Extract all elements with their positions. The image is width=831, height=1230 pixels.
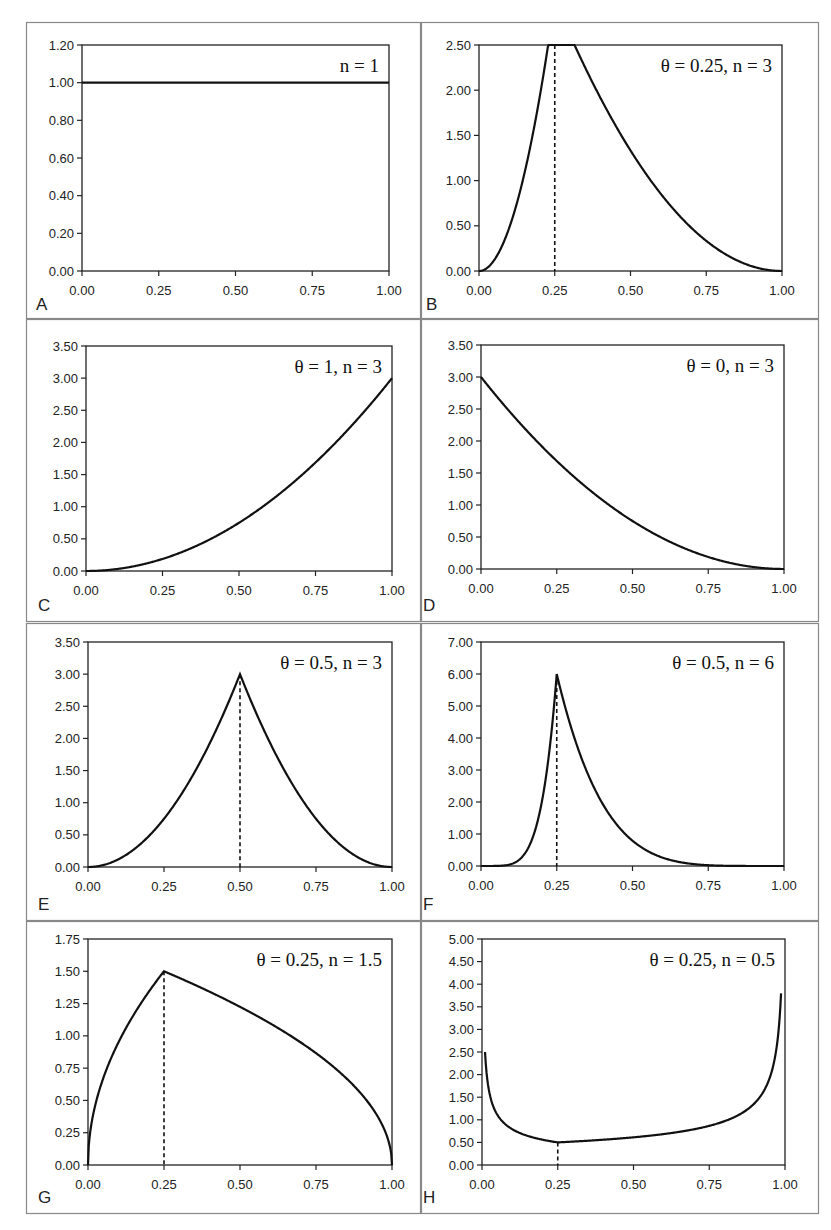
plot-area: [86, 346, 392, 571]
y-tick-label: 3.50: [53, 339, 78, 354]
x-tick-label: 0.00: [468, 581, 493, 596]
x-tick-label: 0.00: [75, 1177, 100, 1192]
y-tick-label: 3.00: [55, 667, 80, 682]
y-tick-label: 1.00: [448, 827, 473, 842]
x-tick-label: 0.50: [620, 581, 645, 596]
plot-area: [82, 45, 389, 271]
y-tick-label: 1.00: [53, 499, 78, 514]
y-tick-label: 3.00: [449, 1022, 474, 1037]
y-tick-label: 0.50: [55, 827, 80, 842]
x-tick-label: 0.50: [223, 283, 248, 298]
x-tick-label: 0.75: [300, 283, 325, 298]
y-tick-label: 0.00: [53, 564, 78, 579]
y-tick-label: 3.50: [448, 338, 473, 353]
figure-grid: 0.000.200.400.600.801.001.200.000.250.50…: [0, 0, 831, 1230]
x-tick-label: 0.25: [545, 1177, 570, 1192]
y-tick-label: 2.50: [449, 1045, 474, 1060]
y-tick-label: 0.00: [55, 860, 80, 875]
y-tick-label: 1.50: [446, 128, 471, 143]
y-tick-label: 0.50: [53, 531, 78, 546]
plot-area: [481, 642, 784, 866]
parameter-annotation: θ = 1, n = 3: [294, 356, 382, 377]
y-tick-label: 2.00: [53, 435, 78, 450]
y-tick-label: 0.00: [449, 1158, 474, 1173]
x-tick-label: 0.00: [468, 878, 493, 893]
y-tick-label: 1.00: [55, 1028, 80, 1043]
x-tick-label: 1.00: [379, 583, 404, 598]
y-tick-label: 2.50: [55, 699, 80, 714]
y-tick-label: 4.00: [448, 731, 473, 746]
x-tick-label: 0.00: [469, 1177, 494, 1192]
y-tick-label: 2.00: [449, 1067, 474, 1082]
y-tick-label: 2.00: [448, 795, 473, 810]
panel-letter: D: [423, 596, 435, 615]
plot-area: [482, 939, 785, 1165]
density-curve: [88, 971, 392, 1165]
panel-letter: G: [38, 1188, 51, 1207]
y-tick-label: 0.40: [49, 188, 74, 203]
panel-letter: B: [426, 295, 437, 314]
y-tick-label: 1.50: [53, 467, 78, 482]
x-tick-label: 1.00: [379, 879, 404, 894]
x-tick-label: 0.25: [544, 581, 569, 596]
x-tick-label: 1.00: [376, 283, 401, 298]
parameter-annotation: θ = 0.25, n = 1.5: [256, 949, 382, 970]
y-tick-label: 1.50: [449, 1090, 474, 1105]
y-tick-label: 1.00: [446, 173, 471, 188]
x-tick-label: 0.75: [696, 878, 721, 893]
plot-area: [88, 939, 392, 1165]
y-tick-label: 3.50: [55, 635, 80, 650]
x-tick-label: 1.00: [771, 581, 796, 596]
y-tick-label: 1.00: [49, 75, 74, 90]
y-tick-label: 1.20: [49, 38, 74, 53]
panel-letter: A: [36, 295, 48, 314]
x-tick-label: 0.75: [303, 879, 328, 894]
x-tick-label: 0.25: [146, 283, 171, 298]
y-tick-label: 2.50: [53, 403, 78, 418]
x-tick-label: 0.50: [226, 583, 251, 598]
x-tick-label: 1.00: [771, 878, 796, 893]
x-tick-label: 0.25: [151, 1177, 176, 1192]
parameter-annotation: θ = 0.25, n = 0.5: [649, 949, 775, 970]
y-tick-label: 0.20: [49, 226, 74, 241]
x-tick-label: 0.25: [151, 879, 176, 894]
y-tick-label: 1.50: [448, 466, 473, 481]
x-tick-label: 0.25: [150, 583, 175, 598]
panel-h: 0.000.501.001.502.002.503.003.504.004.50…: [422, 922, 819, 1214]
y-tick-label: 0.00: [448, 859, 473, 874]
x-tick-label: 0.50: [621, 1177, 646, 1192]
y-tick-label: 0.60: [49, 151, 74, 166]
x-tick-label: 0.75: [697, 1177, 722, 1192]
x-tick-label: 0.75: [303, 583, 328, 598]
y-tick-label: 0.50: [446, 218, 471, 233]
x-tick-label: 0.00: [75, 879, 100, 894]
x-tick-label: 0.75: [696, 581, 721, 596]
panel-letter: E: [38, 895, 49, 914]
x-tick-label: 0.75: [303, 1177, 328, 1192]
parameter-annotation: θ = 0.5, n = 3: [280, 652, 382, 673]
parameter-annotation: n = 1: [340, 55, 379, 76]
y-tick-label: 6.00: [448, 667, 473, 682]
panel-letter: F: [423, 895, 433, 914]
panel-b: 0.000.501.001.502.002.500.000.250.500.75…: [422, 23, 819, 319]
panel-letter: H: [423, 1188, 435, 1207]
y-tick-label: 0.50: [55, 1093, 80, 1108]
y-tick-label: 0.75: [55, 1061, 80, 1076]
x-tick-label: 0.75: [694, 283, 719, 298]
y-tick-label: 2.50: [446, 38, 471, 53]
y-tick-label: 3.00: [53, 371, 78, 386]
y-tick-label: 0.80: [49, 113, 74, 128]
y-tick-label: 2.00: [446, 83, 471, 98]
parameter-annotation: θ = 0.5, n = 6: [672, 652, 774, 673]
y-tick-label: 0.25: [55, 1125, 80, 1140]
x-tick-label: 0.25: [544, 878, 569, 893]
y-tick-label: 1.00: [448, 498, 473, 513]
x-tick-label: 0.50: [618, 283, 643, 298]
panel-e: 0.000.501.001.502.002.503.003.500.000.25…: [27, 624, 421, 921]
parameter-annotation: θ = 0.25, n = 3: [661, 55, 772, 76]
x-tick-label: 0.50: [227, 1177, 252, 1192]
y-tick-label: 3.50: [449, 999, 474, 1014]
y-tick-label: 3.00: [448, 763, 473, 778]
x-tick-label: 1.00: [379, 1177, 404, 1192]
y-tick-label: 5.00: [449, 932, 474, 947]
